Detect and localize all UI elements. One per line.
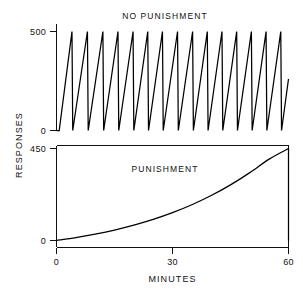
upper-ytick-label-500: 500 <box>30 27 46 37</box>
lower-ytick-label-450: 450 <box>30 144 46 154</box>
upper-ytick-label-0: 0 <box>41 126 46 136</box>
xtick-label-30: 30 <box>167 257 178 267</box>
upper-panel-title: NO PUNISHMENT <box>122 11 208 21</box>
lower-ytick-label-0: 0 <box>41 236 46 246</box>
x-axis-title: MINUTES <box>148 274 196 284</box>
xtick-label-0: 0 <box>54 257 59 267</box>
xtick-label-60: 60 <box>283 257 294 267</box>
lower-panel-title: PUNISHMENT <box>131 164 198 174</box>
cumulative-record-figure: NO PUNISHMENT 500 0 PUNISHMENT 450 0 0 3… <box>0 0 303 290</box>
y-axis-title: RESPONSES <box>14 112 24 178</box>
